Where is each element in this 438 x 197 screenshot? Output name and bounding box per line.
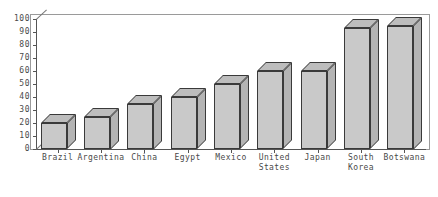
bar [171,97,197,149]
bar-front-face [127,104,153,150]
x-tick-label: Argentina [78,153,125,163]
x-tick-mark [58,149,59,153]
bar-side-face [240,75,249,149]
bar [41,123,67,149]
y-axis-tick-labels: 0102030405060708090100 [0,0,40,197]
x-tick-mark [188,149,189,153]
x-tick-label: South Korea [348,153,374,173]
x-tick-label: China [131,153,157,163]
bar-front-face [257,71,283,149]
bar-chart: 0102030405060708090100 BrazilArgentinaCh… [0,0,438,197]
bar-side-face [370,19,379,149]
bar [344,28,370,149]
y-tick-label: 40 [19,93,30,101]
x-tick-label: United States [259,153,290,173]
x-tick-label: Brazil [42,153,73,163]
bar-front-face [41,123,67,149]
x-tick-mark [361,149,362,153]
bar-front-face [214,84,240,149]
x-axis-category-labels: BrazilArgentinaChinaEgyptMexicoUnited St… [36,153,426,193]
y-tick-label: 30 [19,106,30,114]
y-tick-label: 0 [25,145,30,153]
bar-front-face [344,28,370,149]
bar [257,71,283,149]
bar-front-face [171,97,197,149]
y-tick-label: 60 [19,67,30,75]
bar-side-face [413,17,422,150]
bar-side-face [197,88,206,149]
y-tick-label: 80 [19,41,30,49]
x-tick-label: Egypt [175,153,201,163]
x-tick-mark [318,149,319,153]
bar-side-face [283,62,292,149]
y-tick-label: 70 [19,54,30,62]
bar-front-face [387,26,413,150]
x-tick-mark [101,149,102,153]
x-tick-mark [144,149,145,153]
y-tick-label: 50 [19,80,30,88]
bar [301,71,327,149]
x-tick-label: Botswana [383,153,425,163]
plot-area [36,19,426,149]
y-tick-label: 10 [19,132,30,140]
bar [214,84,240,149]
y-tick-label: 100 [14,15,30,23]
y-tick-label: 90 [19,28,30,36]
bar-side-face [153,95,162,150]
bar-front-face [301,71,327,149]
bar-side-face [327,62,336,149]
x-tick-label: Mexico [215,153,246,163]
x-tick-mark [274,149,275,153]
bar [84,117,110,150]
bar-front-face [84,117,110,150]
x-tick-label: Japan [305,153,331,163]
x-tick-mark [231,149,232,153]
y-tick-label: 20 [19,119,30,127]
x-tick-mark [404,149,405,153]
bar [127,104,153,150]
bar [387,26,413,150]
